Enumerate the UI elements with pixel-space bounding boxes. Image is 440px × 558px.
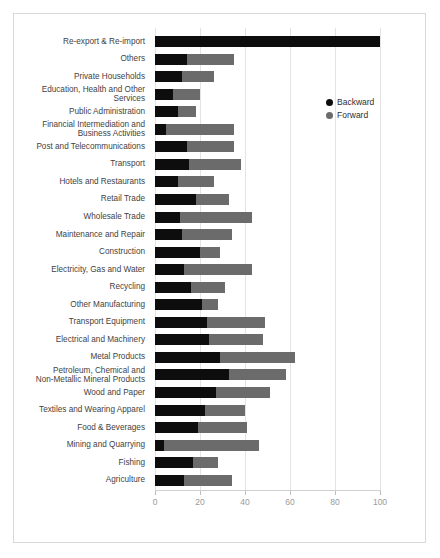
category-label: Recycling: [0, 283, 150, 292]
bar-segment-forward[interactable]: [178, 176, 214, 187]
stacked-bar[interactable]: [155, 475, 232, 486]
bar-segment-forward[interactable]: [229, 369, 285, 380]
bar-segment-forward[interactable]: [187, 54, 234, 65]
bar-segment-forward[interactable]: [209, 334, 263, 345]
category-label: Financial Intermediation and Business Ac…: [0, 120, 150, 138]
bar-segment-backward[interactable]: [155, 54, 187, 65]
stacked-bar[interactable]: [155, 71, 214, 82]
category-label: Private Households: [0, 72, 150, 81]
bar-segment-backward[interactable]: [155, 176, 178, 187]
bar-row: Wood and Paper: [0, 384, 440, 401]
stacked-bar[interactable]: [155, 405, 245, 416]
bar-segment-forward[interactable]: [189, 159, 241, 170]
bar-row: Mining and Quarrying: [0, 437, 440, 454]
bar-row: Maintenance and Repair: [0, 226, 440, 243]
bar-segment-forward[interactable]: [220, 352, 294, 363]
bar-segment-forward[interactable]: [178, 106, 196, 117]
bar-segment-forward[interactable]: [207, 317, 266, 328]
bar-segment-backward[interactable]: [155, 299, 202, 310]
bar-segment-backward[interactable]: [155, 141, 187, 152]
category-label: Education, Health and Other Services: [0, 85, 150, 103]
stacked-bar[interactable]: [155, 334, 263, 345]
bar-segment-forward[interactable]: [187, 141, 234, 152]
bar-segment-backward[interactable]: [155, 36, 380, 47]
bar-segment-backward[interactable]: [155, 440, 164, 451]
bar-row: Financial Intermediation and Business Ac…: [0, 121, 440, 138]
bar-segment-backward[interactable]: [155, 475, 184, 486]
bar-segment-backward[interactable]: [155, 229, 182, 240]
stacked-bar[interactable]: [155, 106, 196, 117]
bar-row: Agriculture: [0, 472, 440, 489]
bar-row: Retail Trade: [0, 191, 440, 208]
stacked-bar[interactable]: [155, 212, 252, 223]
bar-row: Post and Telecommunications: [0, 138, 440, 155]
bar-segment-backward[interactable]: [155, 369, 229, 380]
bar-segment-backward[interactable]: [155, 264, 184, 275]
stacked-bar[interactable]: [155, 54, 234, 65]
bar-segment-forward[interactable]: [184, 475, 231, 486]
stacked-bar[interactable]: [155, 282, 225, 293]
x-axis-tick-label: 40: [240, 497, 249, 507]
bar-row: Electrical and Machinery: [0, 331, 440, 348]
bar-segment-backward[interactable]: [155, 387, 216, 398]
bar-segment-backward[interactable]: [155, 106, 178, 117]
bar-segment-forward[interactable]: [182, 71, 214, 82]
bar-segment-backward[interactable]: [155, 352, 220, 363]
legend-item-backward[interactable]: Backward: [326, 96, 374, 109]
bar-segment-forward[interactable]: [202, 299, 218, 310]
bar-segment-backward[interactable]: [155, 422, 198, 433]
bar-segment-forward[interactable]: [191, 282, 225, 293]
stacked-bar[interactable]: [155, 159, 241, 170]
stacked-bar[interactable]: [155, 124, 234, 135]
bar-segment-backward[interactable]: [155, 71, 182, 82]
stacked-bar[interactable]: [155, 36, 380, 47]
stacked-bar[interactable]: [155, 457, 218, 468]
bar-segment-forward[interactable]: [193, 457, 218, 468]
bar-segment-forward[interactable]: [184, 264, 252, 275]
stacked-bar[interactable]: [155, 299, 218, 310]
bar-segment-backward[interactable]: [155, 124, 166, 135]
bar-row: Petroleum, Chemical and Non-Metallic Min…: [0, 366, 440, 383]
bar-segment-backward[interactable]: [155, 212, 180, 223]
stacked-bar[interactable]: [155, 264, 252, 275]
bar-segment-forward[interactable]: [166, 124, 234, 135]
stacked-bar[interactable]: [155, 352, 295, 363]
stacked-bar[interactable]: [155, 141, 234, 152]
bar-segment-backward[interactable]: [155, 282, 191, 293]
bar-row: Recycling: [0, 279, 440, 296]
bar-row: Electricity, Gas and Water: [0, 261, 440, 278]
bar-segment-backward[interactable]: [155, 457, 193, 468]
bar-segment-backward[interactable]: [155, 89, 173, 100]
bar-segment-backward[interactable]: [155, 159, 189, 170]
stacked-bar[interactable]: [155, 317, 265, 328]
bar-segment-forward[interactable]: [182, 229, 232, 240]
bar-segment-forward[interactable]: [200, 247, 220, 258]
stacked-bar[interactable]: [155, 422, 247, 433]
x-axis-tick-label: 60: [285, 497, 294, 507]
bar-segment-forward[interactable]: [198, 422, 248, 433]
bar-segment-backward[interactable]: [155, 334, 209, 345]
stacked-bar[interactable]: [155, 229, 232, 240]
stacked-bar[interactable]: [155, 387, 270, 398]
stacked-bar[interactable]: [155, 176, 214, 187]
bar-segment-backward[interactable]: [155, 405, 205, 416]
legend-item-forward[interactable]: Forward: [326, 109, 374, 122]
bar-segment-backward[interactable]: [155, 194, 196, 205]
category-label: Retail Trade: [0, 195, 150, 204]
bar-segment-backward[interactable]: [155, 247, 200, 258]
stacked-bar[interactable]: [155, 247, 220, 258]
stacked-bar[interactable]: [155, 194, 229, 205]
bar-segment-backward[interactable]: [155, 317, 207, 328]
stacked-bar[interactable]: [155, 89, 200, 100]
category-label: Re-export & Re-import: [0, 37, 150, 46]
bar-segment-forward[interactable]: [196, 194, 230, 205]
stacked-bar[interactable]: [155, 440, 259, 451]
bar-segment-forward[interactable]: [205, 405, 246, 416]
stacked-bar[interactable]: [155, 369, 286, 380]
bar-segment-forward[interactable]: [164, 440, 259, 451]
category-label: Fishing: [0, 458, 150, 467]
legend-swatch-icon: [326, 99, 333, 106]
bar-segment-forward[interactable]: [216, 387, 270, 398]
bar-segment-forward[interactable]: [173, 89, 200, 100]
bar-segment-forward[interactable]: [180, 212, 252, 223]
